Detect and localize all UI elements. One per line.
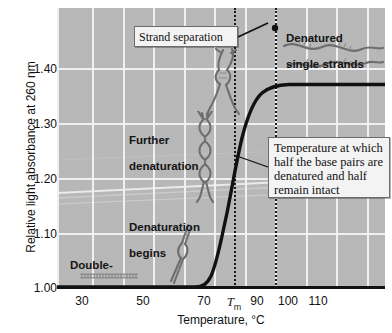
label-line: Further <box>129 134 169 146</box>
label-line: Denaturation <box>129 221 200 233</box>
callout-strand-separation: Strand separation <box>134 26 238 47</box>
label-line: single strands <box>286 58 364 70</box>
x-tick-label: 30 <box>62 294 102 308</box>
callout-text: Temperature at which half the base pairs… <box>274 141 383 197</box>
y-axis-title: Relative light absorbance at 260 nm <box>24 32 38 282</box>
label-denatured-single-strands: Denatured single strands <box>286 19 364 71</box>
label-double-stranded-dna: Double- stranded DNA <box>70 246 147 288</box>
callout-tm-explanation: Temperature at which half the base pairs… <box>268 137 390 198</box>
label-further-denaturation: Further denaturation <box>129 121 199 173</box>
x-tick-label: 110 <box>298 294 338 308</box>
x-axis-title: Temperature, °C <box>57 313 385 327</box>
strand-separation-point <box>268 21 282 35</box>
denaturation-curve-figure: Denatured single strands Further denatur… <box>0 0 392 333</box>
label-line: Double- <box>70 259 113 271</box>
y-tick-label: 1.00 <box>0 281 57 295</box>
label-line: denaturation <box>129 160 199 172</box>
x-axis-line <box>57 286 385 289</box>
callout-text: Strand separation <box>139 30 223 44</box>
tm-symbol: T <box>227 294 234 309</box>
label-line: Denatured <box>286 32 343 44</box>
x-tick-label: 50 <box>123 294 163 308</box>
